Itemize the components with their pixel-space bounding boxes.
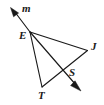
label-E: E bbox=[19, 30, 26, 41]
segment-J-to-T bbox=[42, 51, 88, 88]
label-m: m bbox=[22, 3, 31, 14]
figure-canvas bbox=[0, 0, 104, 105]
geometry-figure: m E J S T bbox=[0, 0, 104, 105]
label-J: J bbox=[91, 41, 97, 52]
label-T: T bbox=[38, 90, 45, 101]
ray-ES-arrowhead bbox=[71, 81, 81, 91]
segment-E-to-T bbox=[30, 32, 42, 87]
label-S: S bbox=[69, 67, 75, 78]
